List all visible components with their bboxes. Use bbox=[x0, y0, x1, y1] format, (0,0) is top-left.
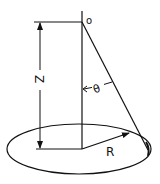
cone-geometry-diagram: o Z θ R bbox=[0, 0, 160, 184]
height-label: Z bbox=[32, 75, 46, 83]
origin-label: o bbox=[86, 15, 92, 26]
radius-label: R bbox=[106, 145, 114, 159]
